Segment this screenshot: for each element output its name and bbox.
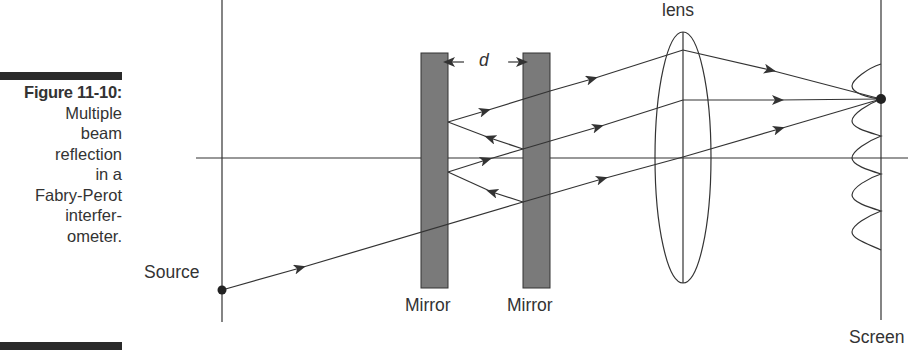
focus-point — [876, 94, 886, 104]
internal-reflection-1 — [492, 192, 523, 202]
spacing-label: d — [479, 50, 489, 71]
fringe-pattern-icon — [852, 64, 881, 250]
mirror-right — [523, 53, 550, 288]
fabry-perot-diagram — [0, 0, 919, 352]
source-point — [218, 286, 227, 295]
transmitted-ray-3 — [550, 79, 592, 91]
mirror-left-label: Mirror — [405, 295, 451, 316]
screen-label: Screen — [849, 327, 904, 348]
mirror-right-label: Mirror — [507, 295, 553, 316]
incident-ray — [222, 268, 300, 290]
source-label: Source — [144, 262, 199, 283]
internal-reflection-2 — [490, 138, 523, 149]
mirror-left — [421, 53, 448, 288]
lens-label: lens — [662, 0, 694, 21]
